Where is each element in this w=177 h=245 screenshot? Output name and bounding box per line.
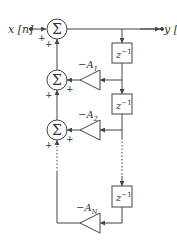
plus-sign: +: [66, 84, 74, 94]
plus-sign: +: [45, 90, 53, 100]
sum-symbol-2: Σ: [52, 72, 62, 88]
output-label: y [n]: [163, 23, 177, 36]
delay-label-3: z−1: [115, 191, 132, 203]
gain-triangle-n: [80, 213, 100, 233]
gain-triangle-1: [80, 70, 100, 90]
sum-symbol-3: Σ: [52, 122, 62, 138]
plus-sign: +: [66, 134, 74, 144]
gain-triangle-2: [80, 120, 100, 140]
delay-label-1: z−1: [115, 48, 132, 60]
gain-label-n: −AN: [76, 202, 99, 216]
input-label: x [n]: [8, 23, 34, 36]
gain-label-1: −A1: [78, 59, 98, 73]
delay-label-2: z−1: [115, 99, 132, 111]
gain-label-2: −A2: [78, 109, 99, 123]
sum-symbol-1: Σ: [52, 21, 62, 37]
plus-sign: +: [45, 140, 53, 150]
all-pole-filter-diagram: x [n] y [n] Σ Σ Σ + + + + + + z−1 z−1 z−…: [0, 0, 177, 245]
plus-sign: +: [45, 39, 53, 49]
